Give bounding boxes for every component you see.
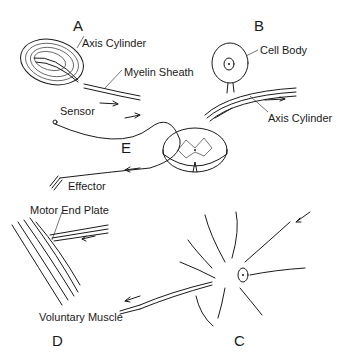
panel-e-letter: E [121,140,131,155]
axis-cylinder-label-a: Axis Cylinder [82,38,146,49]
panel-e-reflex-arc-drawing [50,113,227,190]
neuron-types-diagram: A Axis Cylinder Myelin Sheath B Cell Bod… [0,0,339,358]
effector-label: Effector [68,181,106,192]
myelin-sheath-label: Myelin Sheath [124,67,194,78]
panel-d-letter: D [52,333,63,348]
motor-end-plate-label: Motor End Plate [30,205,109,216]
panel-c-letter: C [234,333,245,348]
axis-cylinder-label-b: Axis Cylinder [268,113,332,124]
panel-a-letter: A [73,18,83,33]
panel-d-motor-end-plate-drawing [12,212,108,305]
voluntary-muscle-label: Voluntary Muscle [39,312,123,323]
panel-b-letter: B [254,18,264,33]
sensor-label: Sensor [60,106,95,117]
panel-c-multipolar-neuron-drawing [120,212,310,326]
cell-body-label: Cell Body [260,45,307,56]
